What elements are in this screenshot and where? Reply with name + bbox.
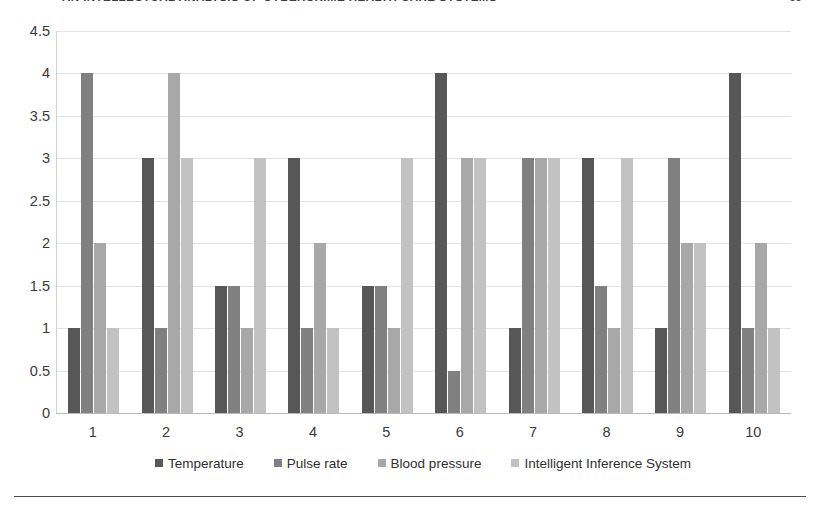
x-axis-tick-label: 10 <box>717 419 790 445</box>
x-axis-tick-label: 3 <box>203 419 276 445</box>
bar[interactable] <box>168 73 180 413</box>
footer-divider <box>14 496 806 497</box>
legend-swatch-icon <box>378 459 386 467</box>
x-axis-tick-label: 8 <box>570 419 643 445</box>
bar[interactable] <box>401 158 413 413</box>
page-number: 69 <box>789 0 802 3</box>
bar[interactable] <box>241 328 253 413</box>
y-axis-tick-label: 4 <box>6 66 50 81</box>
x-axis-tick-label: 2 <box>129 419 202 445</box>
bar[interactable] <box>461 158 473 413</box>
legend-label: Blood pressure <box>391 456 482 471</box>
bar-group <box>644 31 717 413</box>
running-head-text: AN INTELLECTUAL ANALYSIS OF CYBERCRIME H… <box>62 0 762 3</box>
bar[interactable] <box>362 286 374 413</box>
y-axis-tick-label: 3 <box>6 151 50 166</box>
bar[interactable] <box>142 158 154 413</box>
plot-area <box>56 31 791 414</box>
x-axis-tick-label: 1 <box>56 419 129 445</box>
bar-group <box>57 31 130 413</box>
bar[interactable] <box>621 158 633 413</box>
bar[interactable] <box>448 371 460 413</box>
bar[interactable] <box>681 243 693 413</box>
bar[interactable] <box>254 158 266 413</box>
bar[interactable] <box>742 328 754 413</box>
x-axis-tick-label: 7 <box>496 419 569 445</box>
y-axis-tick-label: 2.5 <box>6 194 50 209</box>
bar[interactable] <box>327 328 339 413</box>
bar-groups <box>57 31 791 413</box>
bar[interactable] <box>107 328 119 413</box>
bar[interactable] <box>215 286 227 413</box>
y-axis-tick-label: 1 <box>6 321 50 336</box>
bar[interactable] <box>155 328 167 413</box>
y-axis-tick-label: 2 <box>6 236 50 251</box>
y-axis-tick-label: 0 <box>6 406 50 421</box>
x-axis-tick-label: 9 <box>643 419 716 445</box>
bar-group <box>351 31 424 413</box>
bar[interactable] <box>755 243 767 413</box>
legend-item[interactable]: Pulse rate <box>274 456 348 471</box>
bar[interactable] <box>548 158 560 413</box>
x-axis: 12345678910 <box>56 419 790 445</box>
bar-group <box>497 31 570 413</box>
bar-group <box>424 31 497 413</box>
legend-swatch-icon <box>155 459 163 467</box>
bar-group <box>718 31 791 413</box>
legend-label: Intelligent Inference System <box>524 456 691 471</box>
bar[interactable] <box>595 286 607 413</box>
bar[interactable] <box>228 286 240 413</box>
legend-label: Pulse rate <box>287 456 348 471</box>
bar[interactable] <box>94 243 106 413</box>
bar[interactable] <box>655 328 667 413</box>
bar-group <box>130 31 203 413</box>
y-axis: 4.543.532.521.510.50 <box>0 9 50 489</box>
bar[interactable] <box>388 328 400 413</box>
bar[interactable] <box>314 243 326 413</box>
y-axis-tick-label: 1.5 <box>6 278 50 293</box>
y-axis-tick-label: 0.5 <box>6 363 50 378</box>
bar[interactable] <box>522 158 534 413</box>
bar[interactable] <box>435 73 447 413</box>
chart-legend: TemperaturePulse rateBlood pressureIntel… <box>56 451 790 475</box>
x-axis-tick-label: 4 <box>276 419 349 445</box>
bar-group <box>571 31 644 413</box>
page-running-header: AN INTELLECTUAL ANALYSIS OF CYBERCRIME H… <box>0 0 820 9</box>
bar[interactable] <box>535 158 547 413</box>
bar[interactable] <box>288 158 300 413</box>
legend-item[interactable]: Blood pressure <box>378 456 482 471</box>
legend-swatch-icon <box>511 459 519 467</box>
bar[interactable] <box>375 286 387 413</box>
bar[interactable] <box>181 158 193 413</box>
bar[interactable] <box>68 328 80 413</box>
bar[interactable] <box>301 328 313 413</box>
bar[interactable] <box>694 243 706 413</box>
x-axis-tick-label: 6 <box>423 419 496 445</box>
bar[interactable] <box>509 328 521 413</box>
bar[interactable] <box>608 328 620 413</box>
y-axis-tick-label: 3.5 <box>6 109 50 124</box>
bar[interactable] <box>668 158 680 413</box>
legend-label: Temperature <box>168 456 244 471</box>
bar[interactable] <box>729 73 741 413</box>
y-axis-tick-label: 4.5 <box>6 24 50 39</box>
bar-chart-figure: 4.543.532.521.510.50 12345678910 Tempera… <box>0 9 820 489</box>
bar[interactable] <box>81 73 93 413</box>
bar-group <box>277 31 350 413</box>
legend-swatch-icon <box>274 459 282 467</box>
bar[interactable] <box>768 328 780 413</box>
bar[interactable] <box>474 158 486 413</box>
legend-item[interactable]: Temperature <box>155 456 244 471</box>
x-axis-tick-label: 5 <box>350 419 423 445</box>
legend-item[interactable]: Intelligent Inference System <box>511 456 691 471</box>
bar-group <box>204 31 277 413</box>
bar[interactable] <box>582 158 594 413</box>
